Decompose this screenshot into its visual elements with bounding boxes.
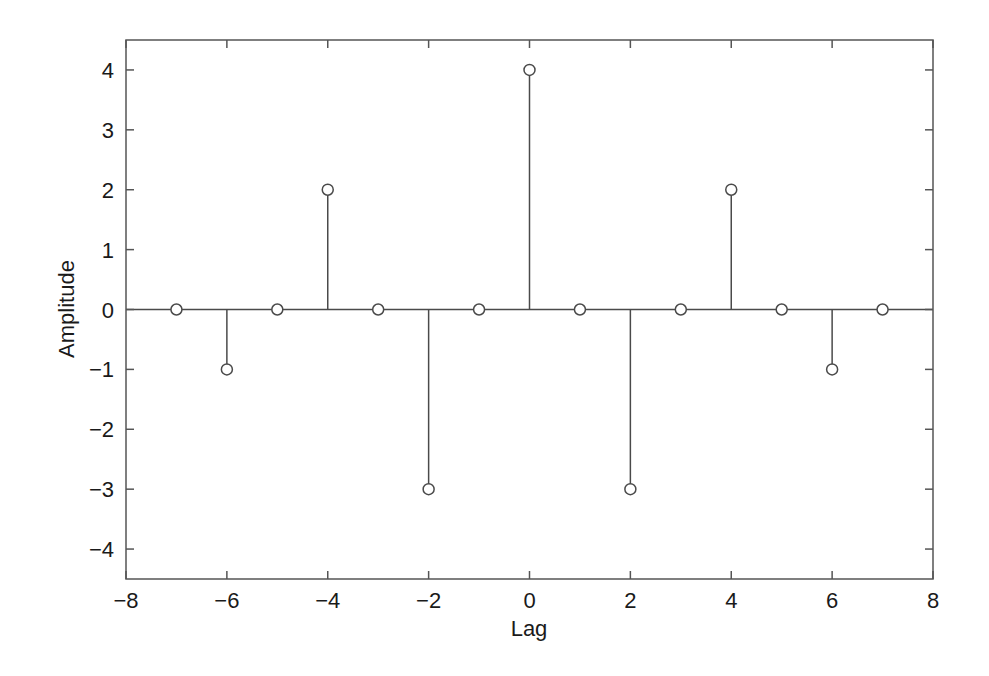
y-tick-label: −4 [89,537,114,562]
y-tick-label: −1 [89,357,114,382]
stem-marker [171,304,182,315]
x-tick-label: 4 [725,588,737,613]
stem-marker [726,184,737,195]
stem [474,304,485,315]
x-tick-label: −4 [315,588,340,613]
y-tick-label: 1 [102,238,114,263]
x-axis-label: Lag [511,616,548,641]
stem [675,304,686,315]
y-tick-label: 4 [102,58,114,83]
stem-marker [776,304,787,315]
stem [524,64,535,309]
stem [726,184,737,309]
y-tick-label: 2 [102,178,114,203]
stem [776,304,787,315]
stem-marker [423,484,434,495]
x-tick-label: 0 [523,588,535,613]
stem [373,304,384,315]
stem-marker [574,304,585,315]
y-axis-label: Amplitude [54,260,79,358]
stem-marker [877,304,888,315]
plot-area [126,64,933,494]
x-tick-label: −8 [113,588,138,613]
stem-marker [474,304,485,315]
stem [322,184,333,309]
x-tick-label: 2 [624,588,636,613]
stem-marker [221,364,232,375]
y-tick-label: 3 [102,118,114,143]
stem-marker [827,364,838,375]
stem [574,304,585,315]
x-tick-label: −6 [214,588,239,613]
stem-marker [272,304,283,315]
stem [625,310,636,495]
stem-marker [675,304,686,315]
x-axis-ticks: −8−6−4−202468 [113,40,939,613]
stem [423,310,434,495]
stem-marker [373,304,384,315]
stem-marker [625,484,636,495]
stem [171,304,182,315]
stem [877,304,888,315]
stem-chart: −8−6−4−202468 −4−3−2−101234 Lag Amplitud… [0,0,989,676]
x-tick-label: 6 [826,588,838,613]
x-tick-label: 8 [927,588,939,613]
stem [272,304,283,315]
stem [221,310,232,375]
y-tick-label: −3 [89,477,114,502]
y-tick-label: 0 [102,298,114,323]
y-tick-label: −2 [89,417,114,442]
x-tick-label: −2 [416,588,441,613]
stem [827,310,838,375]
stem-marker [524,64,535,75]
stem-marker [322,184,333,195]
